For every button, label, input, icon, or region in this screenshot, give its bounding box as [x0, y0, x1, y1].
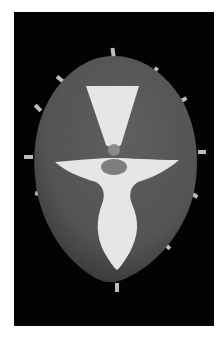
- figure-head: [101, 159, 127, 175]
- artwork-photo: [0, 0, 224, 337]
- figure-neck: [108, 144, 120, 156]
